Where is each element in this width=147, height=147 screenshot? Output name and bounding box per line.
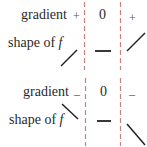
falling-segment-icon <box>127 124 145 145</box>
falling-segment-icon <box>62 104 78 119</box>
rising-segment-icon <box>61 50 77 66</box>
rising-segment-icon <box>127 33 145 51</box>
diagram-graphics <box>0 0 147 147</box>
